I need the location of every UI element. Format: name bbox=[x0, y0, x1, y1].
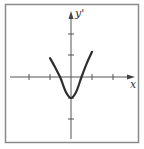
derivative-graph: x y' bbox=[0, 0, 144, 149]
x-axis-label: x bbox=[130, 78, 137, 91]
graph-frame bbox=[6, 5, 139, 143]
y-axis-arrow-icon bbox=[69, 11, 74, 19]
y-axis-label: y' bbox=[74, 7, 84, 20]
